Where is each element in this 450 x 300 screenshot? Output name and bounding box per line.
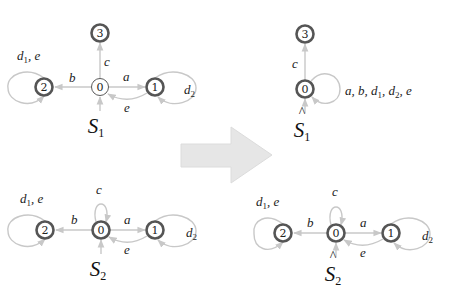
state-label: 0 (333, 227, 340, 240)
right-arrow-icon (181, 127, 272, 183)
edge-s1-1-0 (108, 93, 147, 99)
automaton-s2-hat: 0 2 1 c b a e d1, e d2 ^ S2 (254, 184, 433, 288)
edge-label-a: a (123, 69, 130, 84)
state-label: 3 (302, 28, 309, 41)
edge-label-d1e: d1, e (256, 194, 280, 211)
edge-label-c: c (332, 184, 338, 199)
state-label: 3 (97, 27, 104, 40)
edge-label-b: b (69, 70, 76, 85)
edge-label-d1e: d1, e (20, 191, 44, 208)
edge-label-b: b (307, 215, 314, 230)
edge-label-c: c (292, 56, 298, 71)
state-label: 2 (280, 227, 287, 240)
edge-label-e: e (124, 242, 130, 257)
edge-label-d2: d2 (422, 228, 433, 245)
state-label: 1 (152, 224, 159, 237)
automaton-s1-hat: 3 0 c a, b, d1, d2, e ^ S1 (292, 26, 412, 145)
edge-s2-loop-0 (95, 204, 107, 222)
edge-s2hat-loop-0 (330, 207, 342, 225)
system-name-s2: S2 (90, 257, 107, 283)
automaton-s2: 0 2 1 c b a e d1, e d2 S2 (8, 182, 197, 283)
system-name-s1-hat: S1 (294, 118, 311, 144)
edge-label-b: b (71, 212, 78, 227)
edge-label-e: e (124, 100, 130, 115)
edge-label-a: a (360, 215, 367, 230)
edge-label-c: c (104, 54, 110, 69)
state-label: 1 (152, 81, 159, 94)
state-label: 0 (302, 83, 309, 96)
transform-arrow (181, 127, 272, 183)
edge-s1hat-loop-0 (311, 74, 340, 103)
edge-label-c: c (96, 182, 102, 197)
state-label: 0 (98, 224, 105, 237)
state-label: 0 (97, 81, 104, 94)
automaton-s1: 3 0 2 1 c b a e d1, e d2 S1 (8, 25, 196, 141)
state-label: 2 (42, 224, 49, 237)
edge-label-e: e (360, 245, 366, 260)
system-name-s2-hat: S2 (325, 262, 342, 288)
edge-label-d1e: d1, e (17, 48, 41, 65)
edge-label-d2: d2 (184, 82, 195, 99)
edge-label-a: a (124, 212, 131, 227)
state-label: 1 (388, 227, 395, 240)
state-label: 2 (41, 81, 48, 94)
edge-label-loop: a, b, d1, d2, e (345, 83, 412, 100)
system-name-s1: S1 (88, 114, 105, 140)
diagram-canvas: 3 0 2 1 c b a e d1, e d2 S1 3 0 c a, b, … (0, 0, 450, 300)
